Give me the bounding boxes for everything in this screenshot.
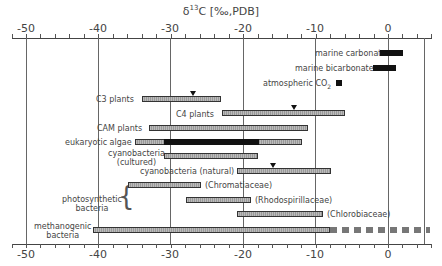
minor-tick <box>84 34 85 38</box>
minor-tick <box>69 34 70 38</box>
minor-tick <box>258 244 259 248</box>
c3-mean-marker-icon <box>190 91 196 96</box>
minor-tick <box>185 34 186 38</box>
minor-tick <box>330 244 331 248</box>
minor-tick <box>417 244 418 248</box>
minor-tick <box>258 34 259 38</box>
minor-tick <box>301 244 302 248</box>
label-cyanobacteria-natural: cyanobacteria (natural) <box>140 167 234 176</box>
minor-tick <box>113 34 114 38</box>
c4-mean-marker-icon <box>291 105 297 110</box>
label-rhodospirillaceae: (Rhodospirillaceae) <box>255 196 332 205</box>
label-marine-bicarbonate: marine bicarbonate <box>295 64 374 73</box>
minor-tick <box>127 244 128 248</box>
minor-tick <box>156 34 157 38</box>
minor-tick <box>388 34 389 38</box>
minor-tick <box>55 244 56 248</box>
minor-tick <box>171 34 172 38</box>
bottom-tick-label: -50 <box>17 248 35 261</box>
bar-chlorobiaceae <box>237 211 323 217</box>
label-eukaryotic-algae: eukaryotic algae <box>65 138 132 147</box>
minor-tick <box>287 34 288 38</box>
minor-tick <box>431 34 432 38</box>
bottom-tick-label: 0 <box>385 248 392 261</box>
minor-tick <box>127 34 128 38</box>
bar-atmospheric-co2 <box>336 80 342 86</box>
minor-tick <box>55 34 56 38</box>
bar-cam-plants <box>149 125 308 131</box>
minor-tick <box>316 34 317 38</box>
minor-tick <box>229 34 230 38</box>
minor-tick <box>40 244 41 248</box>
minor-tick <box>156 244 157 248</box>
label-connector <box>98 98 99 240</box>
minor-tick <box>417 34 418 38</box>
minor-tick <box>84 244 85 248</box>
minor-tick <box>287 244 288 248</box>
label-atmospheric-co2: atmospheric CO2 <box>263 79 331 91</box>
minor-tick <box>214 34 215 38</box>
bar-marine-carbonate <box>380 50 403 56</box>
minor-tick <box>374 244 375 248</box>
minor-tick <box>12 34 13 38</box>
minor-tick <box>359 244 360 248</box>
bottom-tick-label: -20 <box>234 248 252 261</box>
minor-tick <box>113 244 114 248</box>
top-axis <box>12 38 432 39</box>
label-methanogenic-bacteria: methanogenicbacteria <box>34 222 91 240</box>
minor-tick <box>359 34 360 38</box>
top-tick-label: -30 <box>161 22 179 35</box>
bar-rhodospirillaceae <box>186 197 251 203</box>
top-tick-label: -10 <box>306 22 324 35</box>
isotope-range-chart: δ13C [‰,PDB] -50 -40 -30 -20 -10 0 -50 -… <box>0 0 442 266</box>
bar-methanogenic-bacteria <box>93 227 330 233</box>
minor-tick <box>243 34 244 38</box>
label-marine-carbonate: marine carbonate <box>315 49 386 58</box>
bottom-tick-label: -30 <box>161 248 179 261</box>
label-c4-plants: C4 plants <box>176 110 214 119</box>
bar-cyanobacteria-cultured <box>164 153 258 159</box>
bar-marine-bicarbonate <box>373 65 396 71</box>
minor-tick <box>26 34 27 38</box>
minor-tick <box>142 34 143 38</box>
label-photosynthetic-bacteria: photosyntheticbacteria <box>62 195 122 213</box>
label-chromatiaceae: (Chromatiaceae) <box>205 181 272 190</box>
bar-methanogenic-bacteria-extension <box>330 227 430 233</box>
minor-tick <box>200 34 201 38</box>
minor-tick <box>229 244 230 248</box>
bottom-tick-label: -40 <box>89 248 107 261</box>
bar-c3-plants <box>142 96 221 102</box>
bottom-tick-label: -10 <box>306 248 324 261</box>
bar-cyanobacteria-natural <box>237 168 331 174</box>
bar-chromatiaceae <box>128 182 201 188</box>
minor-tick <box>12 244 13 248</box>
minor-tick <box>330 34 331 38</box>
label-cam-plants: CAM plants <box>97 124 142 133</box>
minor-tick <box>402 34 403 38</box>
minor-tick <box>301 34 302 38</box>
minor-tick <box>272 34 273 38</box>
minor-tick <box>98 34 99 38</box>
label-chlorobiaceae: (Chlorobiaceae) <box>327 210 390 219</box>
minor-tick <box>214 244 215 248</box>
minor-tick <box>374 34 375 38</box>
minor-tick <box>40 34 41 38</box>
minor-tick <box>402 244 403 248</box>
label-cyanobacteria-cultured: cyanobacteria(cultured) <box>108 149 165 167</box>
bar-c4-plants <box>222 110 345 116</box>
minor-tick <box>185 244 186 248</box>
minor-tick <box>142 244 143 248</box>
minor-tick <box>345 34 346 38</box>
cyano-natural-mean-marker-icon <box>270 163 276 168</box>
chart-title: δ13C [‰,PDB] <box>0 4 442 18</box>
label-c3-plants: C3 plants <box>96 95 134 104</box>
minor-tick <box>431 244 432 248</box>
gridline <box>26 38 27 244</box>
bar-eukaryotic-algae-dense <box>164 139 259 145</box>
minor-tick <box>69 244 70 248</box>
gridline <box>424 38 425 244</box>
bottom-axis <box>12 244 432 245</box>
minor-tick <box>272 244 273 248</box>
minor-tick <box>345 244 346 248</box>
minor-tick <box>200 244 201 248</box>
